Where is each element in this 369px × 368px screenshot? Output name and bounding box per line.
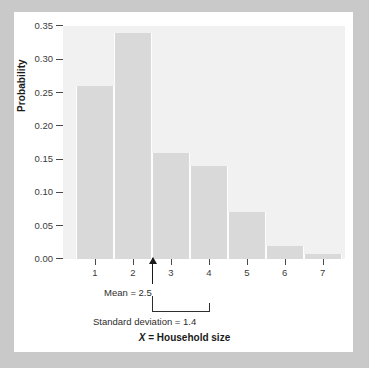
y-axis-tick-mark (56, 92, 63, 93)
y-axis-tick: 0.10 (35, 186, 64, 198)
bar (152, 153, 190, 260)
x-axis-tick-label: 5 (237, 267, 257, 278)
mean-annotation-label: Mean = 2.5 (104, 287, 152, 298)
x-axis-tick-mark (209, 259, 210, 265)
y-axis-tick: 0.25 (35, 87, 64, 99)
x-axis-tick-label: 1 (85, 267, 105, 278)
x-axis-tick-label: 2 (123, 267, 143, 278)
bar (266, 246, 304, 259)
y-axis-tick-mark (56, 159, 63, 160)
x-axis-tick-label: 3 (161, 267, 181, 278)
y-axis-tick-label: 0.00 (35, 253, 54, 265)
y-axis-tick: 0.20 (35, 120, 64, 132)
x-axis-tick-label: 6 (275, 267, 295, 278)
y-axis-tick-label: 0.35 (35, 20, 54, 32)
bar (76, 86, 114, 259)
y-axis-tick-mark (56, 125, 63, 126)
chart-screenshot: 0.350.300.250.200.150.100.050.00 Probabi… (0, 0, 369, 368)
y-axis-tick-mark (56, 59, 63, 60)
x-axis-tick-mark (95, 259, 96, 265)
y-axis-tick: 0.30 (35, 53, 64, 65)
sd-annotation-label: Standard deviation = 1.4 (93, 316, 196, 327)
x-axis: 1234567 (63, 259, 345, 285)
sd-bracket-icon (152, 303, 210, 312)
y-axis-tick: 0.05 (35, 220, 64, 232)
x-axis-tick-mark (171, 259, 172, 265)
x-axis-tick-mark (323, 259, 324, 265)
y-axis-tick-mark (56, 25, 63, 26)
y-axis-tick-mark (56, 258, 63, 259)
x-axis-tick-mark (247, 259, 248, 265)
bar (190, 166, 228, 259)
y-axis-tick: 0.15 (35, 153, 64, 165)
bar (114, 33, 152, 259)
y-axis: 0.350.300.250.200.150.100.050.00 (0, 0, 63, 285)
y-axis-tick-label: 0.30 (35, 53, 54, 65)
x-axis-tick-mark (285, 259, 286, 265)
x-axis-title: X = Household size (0, 332, 369, 343)
y-axis-tick-label: 0.15 (35, 153, 54, 165)
y-axis-tick-label: 0.10 (35, 186, 54, 198)
x-axis-title-rest: = Household size (145, 332, 230, 343)
bar (228, 212, 266, 259)
mean-arrow-icon (152, 258, 153, 284)
y-axis-tick-label: 0.05 (35, 220, 54, 232)
y-axis-title: Probability (16, 59, 27, 112)
x-axis-tick-label: 4 (199, 267, 219, 278)
y-axis-tick: 0.35 (35, 20, 64, 32)
x-axis-tick-mark (133, 259, 134, 265)
plot-area (63, 26, 345, 259)
y-axis-tick-mark (56, 225, 63, 226)
y-axis-tick-label: 0.20 (35, 120, 54, 132)
y-axis-tick: 0.00 (35, 253, 64, 265)
x-axis-tick-label: 7 (313, 267, 333, 278)
y-axis-tick-label: 0.25 (35, 87, 54, 99)
y-axis-tick-mark (56, 192, 63, 193)
